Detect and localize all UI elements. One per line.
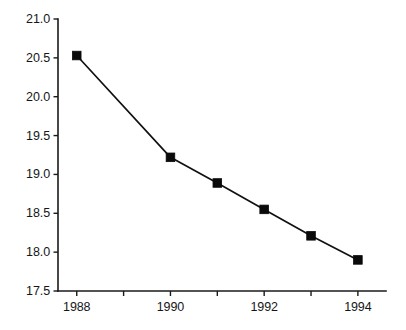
data-point-marker xyxy=(72,51,81,60)
data-point-marker xyxy=(213,179,222,188)
y-tick-label: 20.5 xyxy=(26,51,50,65)
chart-plot-area xyxy=(0,0,406,330)
data-point-marker xyxy=(354,256,363,265)
x-tick-label: 1992 xyxy=(250,300,277,314)
x-tick-label: 1994 xyxy=(344,300,371,314)
y-tick-label: 19.5 xyxy=(26,129,50,143)
y-tick-label: 18.5 xyxy=(26,206,50,220)
x-tick-label: 1988 xyxy=(63,300,90,314)
data-point-marker xyxy=(166,153,175,162)
x-tick-label: 1990 xyxy=(157,300,184,314)
chart-series-group xyxy=(72,51,362,264)
series-line xyxy=(77,56,358,260)
y-tick-label: 21.0 xyxy=(26,12,50,26)
y-tick-label: 18.0 xyxy=(26,245,50,259)
data-point-marker xyxy=(260,205,269,214)
chart-axes xyxy=(58,19,386,291)
y-tick-label: 17.5 xyxy=(26,284,50,298)
chart-figure: 17.518.018.519.019.520.020.521.0 1988199… xyxy=(0,0,406,330)
y-tick-label: 20.0 xyxy=(26,90,50,104)
y-tick-label: 19.0 xyxy=(26,167,50,181)
data-point-marker xyxy=(307,232,316,241)
chart-tick-marks xyxy=(54,19,358,296)
